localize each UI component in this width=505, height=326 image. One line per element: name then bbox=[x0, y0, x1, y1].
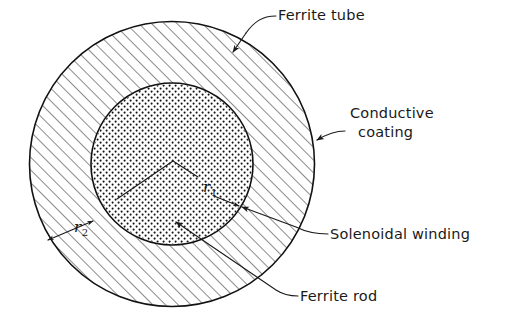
ferrite-tube-label: Ferrite tube bbox=[278, 7, 365, 23]
r1-subscript: 1 bbox=[211, 187, 217, 198]
conductive-coating-label-line1: Conductive bbox=[350, 105, 434, 121]
r2-subscript: 2 bbox=[82, 227, 88, 238]
stipple-fill-region bbox=[92, 84, 252, 244]
ferrite-rod-cross-section-figure: r1 r2 Ferrite tube Conductive coating So… bbox=[0, 0, 505, 326]
conductive-coating-label-line2: coating bbox=[358, 124, 413, 140]
solenoidal-winding-label: Solenoidal winding bbox=[330, 226, 470, 242]
diagram-canvas: r1 r2 Ferrite tube Conductive coating So… bbox=[0, 0, 505, 326]
ferrite-rod-core bbox=[92, 84, 252, 244]
ferrite-rod-label: Ferrite rod bbox=[300, 288, 377, 304]
